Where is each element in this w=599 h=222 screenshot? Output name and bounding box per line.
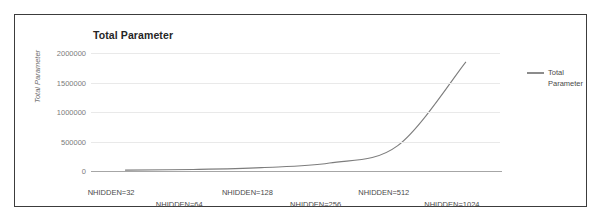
x-axis-line (91, 171, 502, 172)
x-axis-tick-label: NHIDDEN=32 (88, 188, 135, 197)
x-axis-tick-label: NHIDDEN=1024 (424, 200, 479, 209)
gridline (91, 53, 500, 54)
x-axis-tick-label: NHIDDEN=64 (156, 200, 203, 209)
gridline (91, 83, 500, 84)
legend-line-swatch (527, 72, 544, 74)
x-axis-tick-label: NHIDDEN=128 (222, 188, 273, 197)
y-axis-tick-label: 1500000 (57, 78, 86, 87)
y-axis-tick-label: 1000000 (57, 108, 86, 117)
y-axis-title: Total Parameter (33, 50, 42, 103)
chart-screenshot: Total Parameter 050000010000001500000200… (0, 0, 599, 222)
chart-legend: Total Parameter (527, 67, 593, 89)
plot-area (91, 53, 500, 171)
y-axis-tick-label: 2000000 (57, 49, 86, 58)
gridline (91, 142, 500, 143)
gridline (91, 112, 500, 113)
chart-frame: Total Parameter 050000010000001500000200… (14, 14, 587, 207)
y-axis-tick-label: 500000 (61, 137, 86, 146)
legend-label-total-parameter: Total Parameter (548, 67, 592, 89)
x-axis-tick-label: NHIDDEN=512 (358, 188, 409, 197)
y-axis-tick-label: 0 (82, 167, 86, 176)
x-axis-tick-label: NHIDDEN=256 (290, 200, 341, 209)
chart-title: Total Parameter (93, 29, 173, 41)
